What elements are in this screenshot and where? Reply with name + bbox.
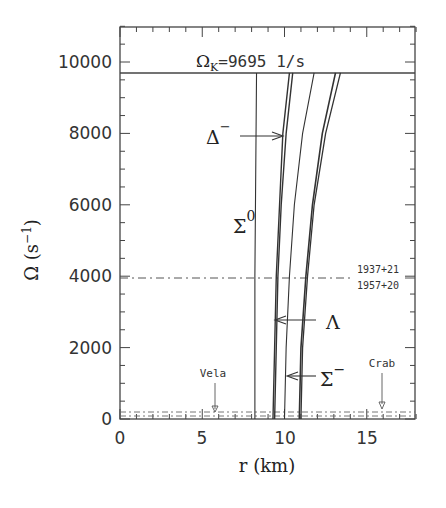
- chart: 0 5 10 15 0 2000 4000 6000 8000 10000 r …: [0, 0, 446, 508]
- x-tick-5: 5: [197, 428, 208, 448]
- y-axis-label: Ω (s−1): [20, 219, 42, 281]
- x-tick-10: 10: [274, 428, 296, 448]
- x-tick-0: 0: [115, 428, 126, 448]
- y-tick-10000: 10000: [58, 52, 112, 72]
- kepler-label: ΩK=9695 1/s: [196, 51, 305, 74]
- lambda-label: Λ: [325, 311, 340, 333]
- curve-0: [255, 73, 257, 419]
- y-tick-6000: 6000: [69, 195, 112, 215]
- sigma-minus-label: Σ−: [320, 361, 345, 390]
- vela-label: Vela: [200, 367, 227, 380]
- x-tick-15: 15: [356, 428, 378, 448]
- crab-label: Crab: [369, 357, 396, 370]
- pulsar-1957-label: 1957+20: [357, 280, 399, 291]
- y-tick-8000: 8000: [69, 123, 112, 143]
- delta-label: Δ−: [206, 119, 231, 148]
- x-axis-label: r (km): [239, 455, 295, 476]
- y-tick-0: 0: [101, 409, 112, 429]
- sigma0-label: Σ0: [233, 208, 255, 237]
- y-tick-4000: 4000: [69, 266, 112, 286]
- svg-text:Ω (s−1): Ω (s−1): [20, 219, 42, 281]
- pulsar-1937-label: 1937+21: [357, 264, 399, 275]
- y-tick-2000: 2000: [69, 338, 112, 358]
